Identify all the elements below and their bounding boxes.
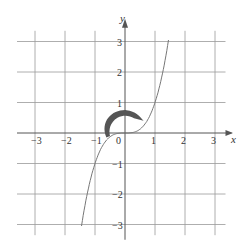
x-tick-label: 1 <box>151 135 156 146</box>
y-tick-label: −2 <box>112 189 123 200</box>
y-tick-label: −1 <box>112 159 123 170</box>
x-tick-label: −3 <box>31 135 42 146</box>
x-tick-label: −2 <box>61 135 72 146</box>
cubic-function-chart: −3−2−10123321−1−2−3 x y <box>0 0 250 247</box>
x-tick-label: 0 <box>116 135 121 146</box>
y-tick-label: 1 <box>117 98 122 109</box>
y-tick-label: 3 <box>117 37 122 48</box>
axes <box>17 19 233 240</box>
x-axis-label: x <box>230 133 236 145</box>
x-tick-label: 2 <box>181 135 186 146</box>
x-tick-label: 3 <box>211 135 216 146</box>
x-tick-label: −1 <box>91 135 102 146</box>
y-tick-label: 2 <box>117 67 122 78</box>
y-axis-label: y <box>119 12 125 24</box>
y-tick-label: −3 <box>112 220 123 231</box>
